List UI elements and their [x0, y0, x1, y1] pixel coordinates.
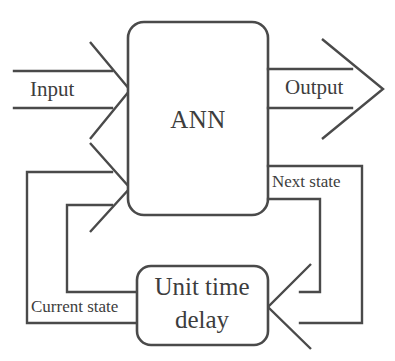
current-state-arrow-vee: [90, 143, 130, 232]
current-state-arrowhead-icon: [90, 143, 130, 232]
next-state-inner-rail: [268, 199, 320, 292]
block-diagram: ANN Unit time delay Input Output Next st…: [0, 0, 395, 361]
next-state-arrow-vee: [268, 264, 311, 349]
next-state-arrowhead-icon: [268, 264, 311, 349]
next-state-label: Next state: [272, 172, 340, 191]
output-label: Output: [285, 75, 344, 99]
input-label: Input: [30, 77, 74, 101]
diagram-canvas: ANN Unit time delay Input Output Next st…: [0, 0, 395, 361]
unit-time-delay-label-line1: Unit time: [154, 273, 249, 300]
unit-time-delay-label-line2: delay: [175, 306, 230, 333]
input-arrow-vee: [90, 42, 130, 139]
ann-block-label: ANN: [170, 106, 226, 133]
input-arrowhead-icon: [90, 42, 130, 139]
current-state-label: Current state: [31, 297, 118, 316]
